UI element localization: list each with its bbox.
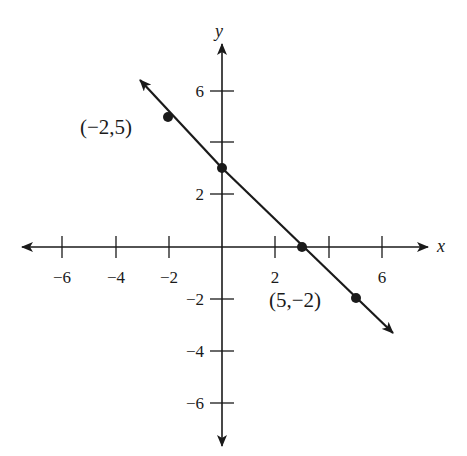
x-tick-label: −2 [160, 268, 178, 287]
x-tick-label: 2 [271, 268, 280, 287]
x-tick-label: −4 [107, 268, 126, 287]
y-axis-label: y [213, 21, 223, 41]
x-axis: −6 −4 −2 2 6 x [22, 236, 445, 287]
x-axis-label: x [436, 236, 445, 256]
x-tick-label: −6 [53, 268, 71, 287]
point-y-intercept [217, 163, 227, 173]
x-tick-label: 6 [378, 268, 387, 287]
graph-canvas: −6 −4 −2 2 6 x 6 2 −2 −4 −6 y [0, 0, 467, 456]
point-label-a: (−2,5) [80, 115, 132, 139]
y-tick-label: 2 [196, 185, 205, 204]
y-tick-label: −4 [186, 342, 205, 361]
point-5-neg2 [351, 293, 361, 303]
y-axis: 6 2 −2 −4 −6 y [186, 21, 234, 446]
point-label-b: (5,−2) [269, 288, 321, 312]
point-neg2-5 [163, 112, 173, 122]
y-tick-label: 6 [196, 82, 205, 101]
coordinate-plane-figure: −6 −4 −2 2 6 x 6 2 −2 −4 −6 y [0, 0, 467, 456]
y-tick-label: −2 [186, 290, 204, 309]
point-x-intercept [297, 242, 307, 252]
y-tick-label: −6 [186, 394, 204, 413]
line-upper-arrow-icon [140, 80, 222, 168]
